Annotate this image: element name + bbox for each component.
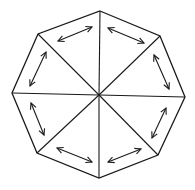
arrow-top-right-icon bbox=[108, 28, 144, 44]
arrow-bottom-left-icon bbox=[57, 147, 92, 162]
spoke-line bbox=[99, 95, 185, 97]
spoke-line bbox=[99, 95, 158, 155]
arrow-left-lower-icon bbox=[30, 103, 44, 135]
spoke-line bbox=[37, 95, 99, 153]
arrow-right-upper-icon bbox=[154, 55, 170, 89]
spoke-line bbox=[99, 36, 160, 95]
octagon-diagram bbox=[0, 0, 195, 190]
arrow-left-upper-icon bbox=[30, 52, 46, 86]
spoke-line bbox=[38, 34, 99, 95]
arrow-right-lower-icon bbox=[152, 108, 166, 138]
spoke-line bbox=[12, 93, 99, 95]
arrow-bottom-right-icon bbox=[108, 148, 141, 162]
spoke-line bbox=[99, 11, 100, 95]
arrow-top-left-icon bbox=[58, 27, 92, 42]
